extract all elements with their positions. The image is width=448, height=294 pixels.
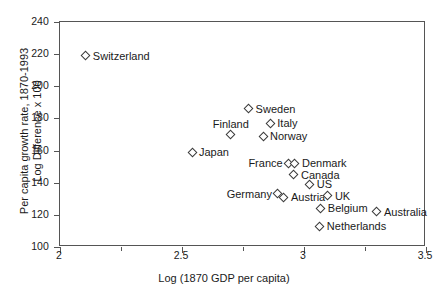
data-point-label: Netherlands xyxy=(327,221,386,232)
data-point-label: UK xyxy=(335,190,350,201)
y-axis-tick-label: 100 xyxy=(31,240,49,252)
x-axis-minor-tick xyxy=(121,247,122,251)
data-point-marker xyxy=(372,207,382,217)
data-point-marker xyxy=(265,118,275,128)
x-axis-title: Log (1870 GDP per capita) xyxy=(0,272,448,284)
data-point-marker xyxy=(187,147,197,157)
x-axis-tick-label: 2 xyxy=(56,249,62,261)
data-point-label: Belgium xyxy=(328,203,368,214)
plot-area: SwitzerlandSwedenItalyFinlandNorwayJapan… xyxy=(59,21,425,246)
y-axis-tick xyxy=(54,183,60,184)
y-axis-tick xyxy=(54,22,60,23)
data-point-marker xyxy=(258,131,268,141)
y-axis-tick xyxy=(54,54,60,55)
scatter-chart-figure: Per capita growth rate, 1870-1993 Log Di… xyxy=(0,0,448,294)
data-point-marker xyxy=(290,158,300,168)
y-axis-tick-label: 220 xyxy=(31,47,49,59)
x-axis-minor-tick xyxy=(365,247,366,251)
data-point-label: Switzerland xyxy=(93,50,150,61)
x-axis-tick-label: 3.5 xyxy=(418,249,433,261)
x-axis-tick-label: 3 xyxy=(300,249,306,261)
x-axis-tick-label: 2.5 xyxy=(174,249,189,261)
y-axis-tick xyxy=(54,118,60,119)
data-point-label: Italy xyxy=(277,118,297,129)
data-point-marker xyxy=(305,179,315,189)
data-point-label: Austria xyxy=(291,192,325,203)
data-point-label: Sweden xyxy=(256,103,296,114)
data-point-label: Finland xyxy=(213,119,249,130)
data-point-label: Germany xyxy=(227,188,272,199)
data-point-marker xyxy=(289,170,299,180)
data-point-label: Norway xyxy=(270,131,307,142)
y-axis-tick-label: 240 xyxy=(31,15,49,27)
y-axis-tick-label: 140 xyxy=(31,176,49,188)
y-axis-tick-label: 180 xyxy=(31,111,49,123)
data-point-label: Japan xyxy=(199,147,229,158)
data-point-marker xyxy=(81,51,91,61)
data-point-label: US xyxy=(317,179,332,190)
y-axis-title-line1: Per capita growth rate, 1870-1993 xyxy=(18,6,31,256)
data-point-label: France xyxy=(248,158,282,169)
data-point-marker xyxy=(316,203,326,213)
x-axis-minor-tick xyxy=(243,247,244,251)
y-axis-tick xyxy=(54,215,60,216)
y-axis-tick-label: 200 xyxy=(31,79,49,91)
y-axis-tick xyxy=(54,86,60,87)
y-axis-tick-label: 160 xyxy=(31,144,49,156)
data-point-marker xyxy=(226,130,236,140)
y-axis-tick-label: 120 xyxy=(31,208,49,220)
data-point-marker xyxy=(279,192,289,202)
y-axis-tick xyxy=(54,151,60,152)
data-point-label: Australia xyxy=(384,206,427,217)
data-point-marker xyxy=(315,221,325,231)
data-point-marker xyxy=(244,104,254,114)
